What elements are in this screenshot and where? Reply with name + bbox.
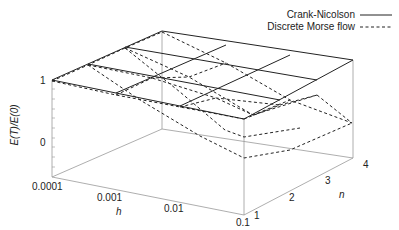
z-axis-ticks (52, 89, 55, 167)
series-discrete-morse-flow (52, 32, 352, 158)
n-tick-1: 1 (254, 211, 260, 221)
legend-entry-crank-nicolson: Crank-Nicolson (287, 10, 355, 20)
h-axis-label: h (116, 207, 122, 217)
z-axis-label: E(T)/E(0) (10, 104, 20, 145)
z-tick-0: 0 (40, 138, 46, 148)
n-tick-4: 4 (363, 160, 369, 170)
h-tick-1: 0.001 (97, 193, 122, 203)
n-tick-3: 3 (325, 176, 331, 186)
n-axis-label: n (339, 190, 345, 200)
h-tick-2: 0.01 (164, 204, 183, 214)
z-tick-1: 1 (40, 76, 46, 86)
series-crank-nicolson (52, 31, 353, 119)
legend-entry-discrete-morse-flow: Discrete Morse flow (267, 22, 355, 32)
h-tick-3: 0.1 (236, 218, 250, 228)
axis-box (52, 31, 353, 215)
n-tick-2: 2 (289, 193, 295, 203)
h-tick-0: 0.0001 (32, 182, 63, 192)
